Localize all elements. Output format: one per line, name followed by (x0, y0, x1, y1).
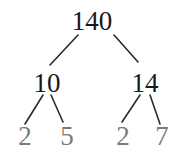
factor-node-left: 10 (34, 68, 61, 98)
prime-leaf-1: 2 (18, 121, 32, 151)
edge-140-to-14 (114, 35, 138, 62)
prime-leaf-3: 2 (116, 121, 130, 151)
prime-leaf-4: 7 (155, 121, 169, 151)
edge-140-to-10 (50, 35, 78, 65)
edge-14-to-2 (122, 95, 140, 122)
root-node: 140 (72, 6, 113, 36)
edge-14-to-7 (150, 95, 160, 124)
factor-tree-diagram: 140 10 14 2 5 2 7 (0, 0, 178, 151)
edge-10-to-5 (51, 95, 63, 122)
factor-node-right: 14 (132, 68, 160, 98)
edge-10-to-2 (25, 95, 43, 124)
prime-leaf-2: 5 (60, 121, 74, 151)
